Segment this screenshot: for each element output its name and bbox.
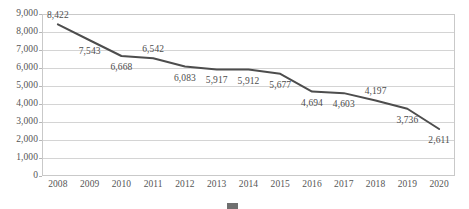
x-tick-label: 2017 xyxy=(334,178,353,190)
y-tick-label: 4,000 xyxy=(0,99,38,109)
chart-container: 9,0008,0007,0006,0005,0004,0003,0002,000… xyxy=(0,0,469,209)
y-tick-label: 7,000 xyxy=(0,45,38,55)
y-tick-label: 9,000 xyxy=(0,9,38,19)
y-tick-label: 6,000 xyxy=(0,63,38,73)
data-point-label: 3,736 xyxy=(396,115,418,125)
y-tick-label: 5,000 xyxy=(0,81,38,91)
y-tick-label: 8,000 xyxy=(0,27,38,37)
data-point-label: 2,611 xyxy=(428,135,450,145)
y-tick-label: 0 xyxy=(0,171,38,181)
data-point-label: 5,912 xyxy=(238,76,260,86)
x-tick-label: 2010 xyxy=(112,178,131,190)
x-tick-label: 2009 xyxy=(80,178,99,190)
data-point-label: 6,083 xyxy=(174,73,196,83)
data-point-label: 8,422 xyxy=(47,10,69,20)
x-tick-label: 2012 xyxy=(175,178,194,190)
data-point-label: 4,694 xyxy=(301,98,323,108)
y-tick-mark xyxy=(39,176,42,177)
x-tick-label: 2013 xyxy=(207,178,226,190)
x-tick-label: 2014 xyxy=(239,178,258,190)
x-tick-label: 2018 xyxy=(366,178,385,190)
line-series xyxy=(42,14,455,176)
y-tick-label: 1,000 xyxy=(0,153,38,163)
data-point-label: 6,668 xyxy=(110,62,132,72)
data-point-label: 5,677 xyxy=(269,80,291,90)
x-tick-label: 2015 xyxy=(271,178,290,190)
x-tick-label: 2008 xyxy=(48,178,67,190)
y-tick-label: 3,000 xyxy=(0,117,38,127)
data-point-label: 4,197 xyxy=(365,86,387,96)
x-axis: 2008200920102011201220132014201520162017… xyxy=(42,178,455,194)
x-tick-label: 2016 xyxy=(302,178,321,190)
y-tick-label: 2,000 xyxy=(0,135,38,145)
data-point-label: 5,917 xyxy=(206,75,228,85)
chart-caption xyxy=(0,200,469,209)
data-point-label: 4,603 xyxy=(333,99,355,109)
legend-swatch-icon xyxy=(227,203,238,209)
x-tick-label: 2011 xyxy=(144,178,163,190)
data-point-label: 7,543 xyxy=(79,46,101,56)
x-tick-label: 2020 xyxy=(429,178,448,190)
data-point-label: 6,542 xyxy=(142,44,164,54)
x-tick-label: 2019 xyxy=(398,178,417,190)
y-axis: 9,0008,0007,0006,0005,0004,0003,0002,000… xyxy=(0,14,38,176)
